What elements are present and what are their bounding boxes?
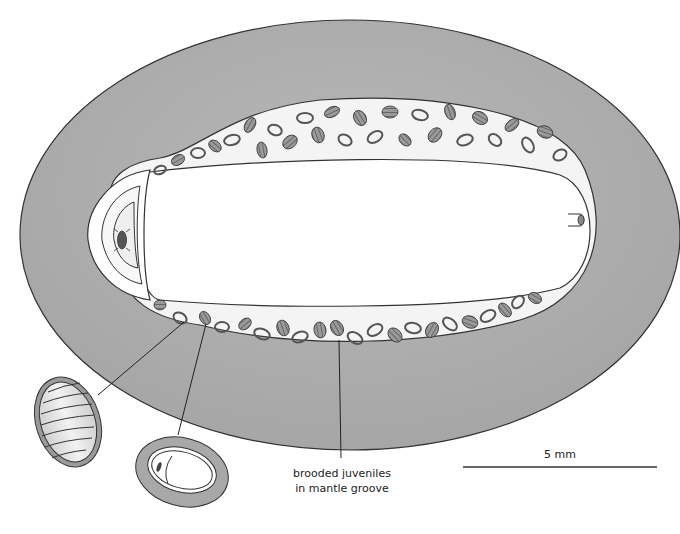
label-line-1: brooded juveniles xyxy=(282,466,402,481)
scale-bar-label: 5 mm xyxy=(520,447,600,462)
brooded-juveniles-label: brooded juveniles in mantle groove xyxy=(282,466,402,496)
enlarged-juvenile xyxy=(23,368,112,475)
enlarged-egg-capsule xyxy=(128,427,236,517)
anal-papilla xyxy=(568,214,584,226)
label-line-2: in mantle groove xyxy=(282,481,402,496)
foot xyxy=(136,160,590,307)
